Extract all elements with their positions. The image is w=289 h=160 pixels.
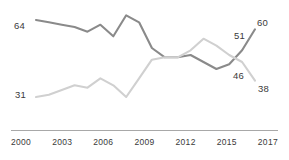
x-axis-rule (11, 130, 278, 131)
label-end-dark: 60 (257, 18, 268, 28)
x-tick-2003: 2003 (52, 138, 72, 147)
label-start-dark: 64 (14, 21, 25, 31)
label-end-light: 38 (258, 84, 269, 94)
x-tick-2006: 2006 (93, 138, 113, 147)
x-axis-tick-labels: 2000 2003 2006 2009 2012 2015 2017 (11, 138, 278, 152)
label-start-light: 31 (15, 90, 26, 100)
dark-series-line (36, 15, 255, 69)
label-mid-light: 46 (233, 71, 244, 81)
label-mid-dark: 51 (234, 31, 245, 41)
plot-area (0, 0, 289, 160)
x-tick-2017: 2017 (258, 138, 278, 147)
x-tick-2012: 2012 (176, 138, 196, 147)
line-chart: 64 31 51 46 60 38 2000 2003 2006 2009 20… (0, 0, 289, 160)
x-tick-2000: 2000 (11, 138, 31, 147)
x-tick-2009: 2009 (134, 138, 154, 147)
x-tick-2015: 2015 (217, 138, 237, 147)
